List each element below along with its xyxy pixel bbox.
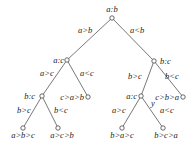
comparison-node <box>110 16 114 20</box>
leaf-label: a>c>b <box>50 130 74 140</box>
comparison-node <box>139 94 143 98</box>
edge-label: a>c <box>112 105 126 115</box>
comparison-node <box>65 58 69 62</box>
node-labels: a:ba:cb:cb:cc>a>ba:cc>b>aa>b>ca>c>bb>a>c… <box>11 4 179 140</box>
edge-label: b>c <box>17 105 31 115</box>
edge-label: a<c <box>160 105 174 115</box>
leaf-label: b>c>a <box>154 130 178 140</box>
node-label: a:c <box>53 55 64 65</box>
edge-label: a>c <box>40 68 54 78</box>
comparison-node <box>40 94 44 98</box>
edge-label: a<c <box>80 68 94 78</box>
node-label: b:c <box>160 56 171 66</box>
leaf-node <box>86 95 90 99</box>
edge-label: b<c <box>54 105 68 115</box>
node-label: a:b <box>106 4 117 14</box>
leaf-label: c>a>b <box>60 92 84 102</box>
edge-label: a<b <box>130 25 144 35</box>
comparison-node <box>152 59 156 63</box>
annotation-label: y <box>150 98 155 108</box>
annotations: y <box>150 98 155 108</box>
node-label: a:c <box>126 91 137 101</box>
leaf-label: a>b>c <box>11 130 35 140</box>
tree-edge <box>42 60 67 96</box>
leaf-node <box>181 95 185 99</box>
decision-tree-diagram: a>ba<ba>ca<cb>cb<cb>cb<ca>ca<c a:ba:cb:c… <box>0 0 191 151</box>
edge-label: a>b <box>78 25 92 35</box>
leaf-label: b>a>c <box>110 130 134 140</box>
node-label: b:c <box>24 91 35 101</box>
leaf-label: c>b>a <box>155 92 179 102</box>
edge-label: b<c <box>165 71 179 81</box>
edge-label: b>c <box>128 71 142 81</box>
tree-edge <box>141 61 154 96</box>
